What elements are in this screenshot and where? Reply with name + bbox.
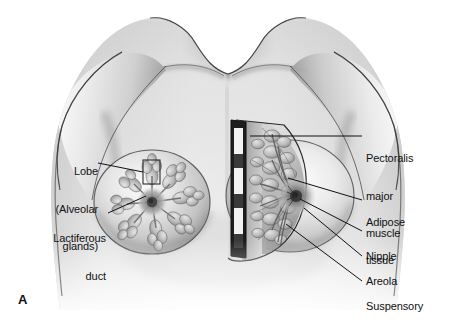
label-lactiferous-duct: Lactiferous duct [20,207,106,307]
label-suspensory-line1: Suspensory [366,300,456,313]
label-lactiferous-duct-line2: duct [20,270,106,283]
breast-anatomy-figure: Lobe (Alveolar glands) Lactiferous duct … [0,0,456,322]
label-suspensory-ligaments: Suspensory ligaments [366,275,456,322]
label-lobe-line1: Lobe [26,165,98,178]
label-pectoralis-line1: Pectoralis [366,152,452,165]
panel-letter: A [18,292,27,307]
ribs [231,120,246,258]
label-lactiferous-duct-line1: Lactiferous [20,232,106,245]
